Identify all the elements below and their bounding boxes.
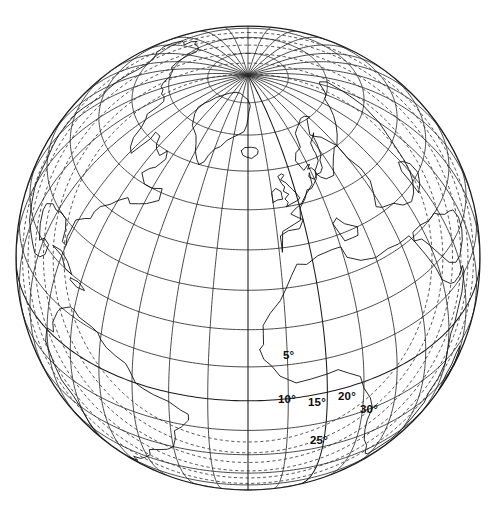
contour-label-5: 5°	[283, 349, 295, 361]
contour-label-30: 30°	[360, 403, 378, 415]
contour-label-15: 15°	[308, 396, 326, 408]
contour-label-10: 10°	[278, 393, 296, 405]
contour-label-25: 25°	[310, 434, 328, 446]
globe-map-svg: 5° 10° 15° 20° 30° 25°	[0, 0, 497, 511]
contour-label-20: 20°	[338, 390, 356, 402]
globe-figure: 5° 10° 15° 20° 30° 25°	[0, 0, 497, 511]
